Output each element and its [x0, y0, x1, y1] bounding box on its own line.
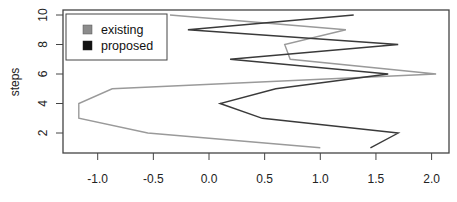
legend-label-existing: existing — [101, 23, 143, 37]
y-tick-label: 10 — [36, 8, 50, 22]
legend-box — [66, 14, 167, 60]
legend-swatch-existing — [83, 25, 92, 34]
y-tick-label: 4 — [36, 100, 50, 107]
legend: existing proposed — [66, 14, 167, 60]
legend-label-proposed: proposed — [101, 39, 153, 53]
y-tick-label: 8 — [36, 41, 50, 48]
x-tick-label: 1.5 — [368, 172, 385, 186]
y-axis-title: steps — [8, 68, 22, 97]
x-tick-label: -0.5 — [143, 172, 164, 186]
x-tick-label: -1.0 — [87, 172, 108, 186]
y-tick-label: 2 — [36, 129, 50, 136]
legend-swatch-proposed — [83, 41, 92, 50]
x-tick-label: 1.0 — [312, 172, 329, 186]
x-tick-label: 0.5 — [256, 172, 273, 186]
y-tick-label: 6 — [36, 70, 50, 77]
line-chart: -1.0-0.50.00.51.01.52.0 246810 steps exi… — [0, 0, 457, 202]
x-tick-label: 2.0 — [423, 172, 440, 186]
x-tick-label: 0.0 — [201, 172, 218, 186]
